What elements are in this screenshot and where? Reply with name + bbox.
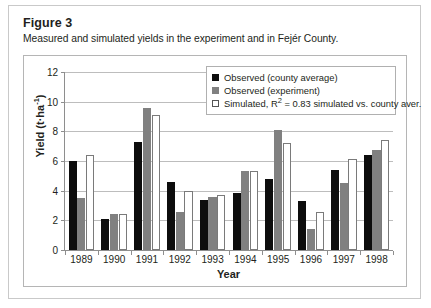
legend-swatch-icon-observed-county: [212, 74, 219, 81]
bar-observed-exp-1998: [372, 150, 380, 250]
y-axis-tick-label: 2: [52, 215, 58, 226]
x-axis-tick-label: 1993: [196, 254, 229, 265]
bar-simulated-1996: [316, 212, 324, 250]
y-axis-tick: [61, 131, 65, 132]
bar-observed-exp-1990: [110, 214, 118, 250]
bar-simulated-1995: [283, 143, 291, 250]
y-axis-tick-label: 8: [52, 126, 58, 137]
x-axis-tick-label: 1996: [295, 254, 328, 265]
legend-label-simulated-suffix: = 0.83 simulated vs. county aver.: [282, 98, 421, 109]
bar-observed-county-1997: [331, 170, 339, 250]
y-axis-tick: [61, 161, 65, 162]
y-axis-tick-label: 6: [52, 156, 58, 167]
y-axis-tick: [61, 191, 65, 192]
bar-simulated-1998: [381, 140, 389, 250]
legend-swatch-icon-observed-experiment: [212, 87, 219, 94]
bar-group: [69, 72, 95, 250]
bar-observed-county-1992: [167, 182, 175, 250]
y-axis-tick-label: 10: [47, 96, 58, 107]
bar-simulated-1990: [119, 214, 127, 250]
legend-label-simulated: Simulated, R2 = 0.83 simulated vs. count…: [224, 98, 421, 109]
x-axis-tick: [393, 251, 394, 255]
bar-simulated-1989: [86, 155, 94, 250]
x-axis-title: Year: [64, 268, 393, 280]
x-axis-tick-label: 1992: [163, 254, 196, 265]
bar-observed-county-1994: [233, 193, 241, 250]
chart-frame: Yield (t·ha-1) 024681012 198919901991199…: [23, 55, 407, 287]
legend-swatch-icon-simulated: [212, 100, 219, 107]
bar-observed-county-1995: [265, 179, 273, 250]
legend-item-observed-county: Observed (county average): [212, 71, 390, 84]
bar-simulated-1994: [250, 171, 258, 250]
legend-item-observed-experiment: Observed (experiment): [212, 84, 390, 97]
bar-observed-county-1991: [134, 142, 142, 250]
figure-label: Figure 3: [23, 16, 72, 30]
bar-simulated-1992: [184, 191, 192, 250]
legend-label-observed-county: Observed (county average): [224, 72, 338, 83]
bar-observed-exp-1992: [176, 212, 184, 250]
y-axis-tick: [61, 72, 65, 73]
bar-observed-county-1996: [298, 201, 306, 250]
y-axis-tick: [61, 102, 65, 103]
bar-simulated-1991: [152, 115, 160, 250]
bar-simulated-1997: [348, 159, 356, 250]
x-axis-tick-label: 1994: [229, 254, 262, 265]
y-axis-tick-label: 12: [47, 67, 58, 78]
x-axis-tick-label: 1995: [262, 254, 295, 265]
x-axis-tick-label: 1989: [65, 254, 98, 265]
bar-group: [101, 72, 127, 250]
x-axis-tick: [65, 251, 66, 255]
x-axis-tick-label: 1997: [327, 254, 360, 265]
y-axis-tick-label: 4: [52, 185, 58, 196]
bar-simulated-1993: [217, 195, 225, 250]
legend-label-observed-experiment: Observed (experiment): [224, 85, 320, 96]
legend-item-simulated: Simulated, R2 = 0.83 simulated vs. count…: [212, 97, 390, 110]
bar-observed-exp-1991: [143, 108, 151, 250]
bar-observed-exp-1997: [340, 183, 348, 250]
bar-observed-exp-1995: [274, 130, 282, 250]
bar-group: [134, 72, 160, 250]
x-axis-tick-label: 1998: [360, 254, 393, 265]
chart-legend: Observed (county average) Observed (expe…: [206, 66, 396, 115]
bar-observed-exp-1993: [208, 197, 216, 250]
y-axis-tick: [61, 220, 65, 221]
figure-card: Figure 3 Measured and simulated yields i…: [8, 5, 421, 299]
legend-label-simulated-prefix: Simulated, R: [224, 98, 278, 109]
bar-observed-exp-1996: [307, 229, 315, 251]
bar-observed-exp-1989: [77, 198, 85, 250]
bar-observed-county-1993: [200, 200, 208, 250]
bar-group: [167, 72, 193, 250]
y-axis-tick-labels: 024681012: [24, 72, 58, 251]
bar-observed-county-1990: [101, 219, 109, 250]
bar-observed-county-1989: [69, 161, 77, 250]
y-axis-tick-label: 0: [52, 245, 58, 256]
x-axis-tick-label: 1991: [131, 254, 164, 265]
x-axis-tick-label: 1990: [98, 254, 131, 265]
figure-caption: Measured and simulated yields in the exp…: [23, 33, 338, 44]
bar-observed-exp-1994: [241, 171, 249, 250]
bar-observed-county-1998: [364, 155, 372, 250]
